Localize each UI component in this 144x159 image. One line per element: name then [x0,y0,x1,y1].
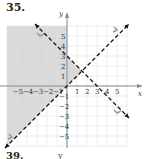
x-tick-label: −5 [13,88,23,96]
y-tick-label: −3 [59,113,69,121]
x-axis-label: x [138,90,142,98]
region-marker-icon [114,110,121,113]
next-problem-number: 39. [6,150,23,159]
x-tick-label: −3 [33,88,43,96]
y-axis-label: y [58,10,64,18]
y-tick-label: 2 [61,63,65,71]
y-tick-label: 5 [61,33,65,41]
region-marker-icon [113,27,117,32]
y-tick-label: −2 [59,103,69,111]
x-tick-label: 1 [75,88,79,96]
y-tick-label: −4 [59,123,70,131]
x-axis-arrow-icon [137,84,143,88]
x-tick-label: 5 [115,88,119,96]
x-tick-label: −2 [43,88,53,96]
y-tick-label: −5 [59,133,69,141]
y-tick-label: 4 [61,43,66,51]
next-problem-fragment: y [58,151,63,159]
y-tick-label: 1 [61,73,65,81]
y-axis-arrow-icon [65,12,69,18]
x-tick-label: 2 [85,88,89,96]
x-tick-label: 3 [95,88,99,96]
inequality-graph: xy−5−4−3−2−11234554321−1−2−3−4−5 [0,0,144,159]
y-tick-label: −1 [59,93,69,101]
